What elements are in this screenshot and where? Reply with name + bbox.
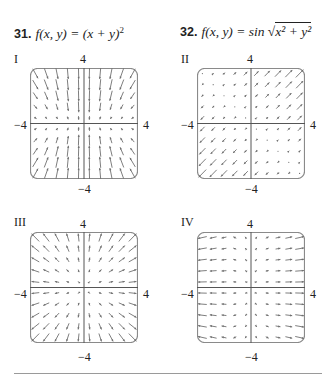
exponent: 2 — [120, 24, 125, 34]
panel-III: III 4 −4 4 −4 — [14, 215, 164, 377]
y-max-label: 4 — [247, 52, 253, 67]
vector-field-plot — [30, 232, 138, 343]
y-max-label: 4 — [80, 217, 86, 232]
y-max-label: 4 — [247, 217, 253, 232]
x-min-label: −4 — [181, 287, 194, 302]
panel-IV: IV 4 −4 4 −4 — [181, 215, 331, 377]
panel-label: II — [181, 52, 189, 67]
x-min-label: −4 — [14, 287, 27, 302]
panel-label: I — [14, 52, 18, 67]
y-min-label: −4 — [245, 350, 258, 365]
x-max-label: 4 — [143, 287, 149, 302]
function-lhs: f(x, y) = — [35, 26, 82, 41]
x-max-label: 4 — [143, 118, 149, 133]
problem-31: 31.f(x, y) = (x + y)2 — [14, 24, 124, 42]
panel-label: III — [14, 215, 26, 230]
x-min-label: −4 — [181, 118, 194, 133]
panel-II: II 4 −4 4 −4 — [181, 52, 331, 222]
x-max-label: 4 — [310, 118, 316, 133]
function-rhs: (x + y) — [83, 26, 120, 41]
problem-function: f(x, y) = (x + y)2 — [35, 26, 124, 41]
x-max-label: 4 — [310, 287, 316, 302]
radicand: x² + y² — [275, 22, 311, 39]
vector-field-plot — [197, 232, 305, 343]
problem-32: 32.f(x, y) = sin √x² + y² — [180, 24, 311, 40]
panel-label: IV — [181, 215, 194, 230]
y-min-label: −4 — [78, 350, 91, 365]
function-lhs: f(x, y) = sin — [201, 24, 267, 39]
x-min-label: −4 — [14, 118, 27, 133]
y-min-label: −4 — [245, 182, 258, 197]
vector-field-plot — [197, 68, 305, 179]
vector-field-plot — [30, 68, 138, 179]
panel-I: I 4 −4 4 −4 — [14, 52, 164, 222]
problem-number: 31. — [14, 27, 31, 41]
y-max-label: 4 — [80, 52, 86, 67]
problem-number: 32. — [180, 25, 197, 39]
section-divider — [14, 373, 322, 374]
problem-function: f(x, y) = sin √x² + y² — [201, 22, 311, 39]
y-min-label: −4 — [78, 182, 91, 197]
